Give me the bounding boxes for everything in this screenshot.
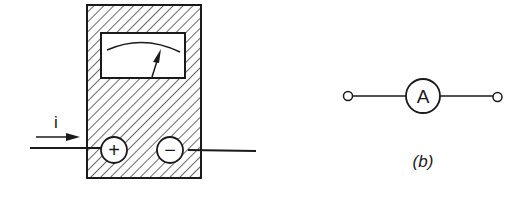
ammeter-diagram: + − i A (b) — [0, 0, 525, 206]
terminal-node-right — [493, 93, 502, 102]
figure-caption-b: (b) — [413, 152, 434, 171]
ammeter-symbol-letter: A — [417, 86, 430, 107]
negative-terminal-label: − — [164, 139, 176, 161]
current-arrow-icon — [66, 133, 80, 141]
current-label: i — [54, 113, 58, 132]
meter-window — [101, 33, 185, 78]
terminal-node-left — [344, 92, 353, 101]
positive-terminal-label: + — [108, 139, 120, 161]
ammeter-device: + − i — [30, 5, 256, 178]
wire-right — [188, 150, 256, 151]
ammeter-symbol: A (b) — [344, 79, 503, 171]
